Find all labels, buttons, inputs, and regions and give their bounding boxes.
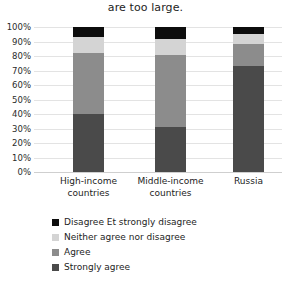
x-axis-category-label: High-incomecountries <box>43 176 135 199</box>
y-axis-labels: 100%90%80%70%60%50%40%30%20%10%0% <box>0 27 31 172</box>
bar-segment <box>73 114 104 172</box>
bar-segment <box>155 39 186 55</box>
legend-label: Neither agree nor disagree <box>64 232 185 243</box>
bar-segment <box>233 27 264 34</box>
bar-segment <box>233 44 264 66</box>
bar-segment <box>73 27 104 37</box>
y-axis-tick-label: 0% <box>0 167 31 177</box>
legend-item[interactable]: Disagree Et strongly disagree <box>52 215 252 230</box>
x-axis-label-line: countries <box>125 188 217 200</box>
plot-area <box>34 27 282 172</box>
y-axis-tick-label: 60% <box>0 80 31 90</box>
legend-label: Agree <box>64 247 90 258</box>
x-axis-category-labels: High-incomecountriesMiddle-incomecountri… <box>34 176 282 206</box>
legend-label: Disagree Et strongly disagree <box>64 217 197 228</box>
y-axis-tick-label: 90% <box>0 37 31 47</box>
bar-segment <box>73 37 104 53</box>
bar-segment <box>155 27 186 39</box>
bar-segment <box>233 34 264 44</box>
x-axis-category-label: Russia <box>203 176 292 188</box>
legend-swatch-icon <box>52 234 59 241</box>
bar-segment <box>155 55 186 128</box>
x-axis-label-line: countries <box>43 188 135 200</box>
bar-segment <box>233 66 264 172</box>
y-axis-tick-label: 10% <box>0 153 31 163</box>
legend-item[interactable]: Neither agree nor disagree <box>52 230 252 245</box>
legend-swatch-icon <box>52 249 59 256</box>
y-axis-tick-label: 30% <box>0 124 31 134</box>
y-axis-tick-label: 20% <box>0 138 31 148</box>
bar-segment <box>155 127 186 172</box>
legend-item[interactable]: Agree <box>52 245 252 260</box>
chart-legend: Disagree Et strongly disagreeNeither agr… <box>52 215 252 275</box>
legend-item[interactable]: Strongly agree <box>52 260 252 275</box>
y-axis-tick-label: 70% <box>0 66 31 76</box>
legend-swatch-icon <box>52 219 59 226</box>
y-axis-tick-label: 100% <box>0 22 31 32</box>
legend-label: Strongly agree <box>64 262 130 273</box>
x-axis-label-line: Russia <box>203 176 292 188</box>
legend-swatch-icon <box>52 264 59 271</box>
gridline <box>34 172 282 173</box>
y-axis-tick-label: 80% <box>0 51 31 61</box>
y-axis-tick-label: 50% <box>0 95 31 105</box>
y-axis-tick-label: 40% <box>0 109 31 119</box>
bar-segment <box>73 53 104 114</box>
chart-title: are too large. <box>0 1 291 14</box>
stacked-bar-chart: are too large. 100%90%80%70%60%50%40%30%… <box>0 0 291 286</box>
x-axis-label-line: High-income <box>43 176 135 188</box>
